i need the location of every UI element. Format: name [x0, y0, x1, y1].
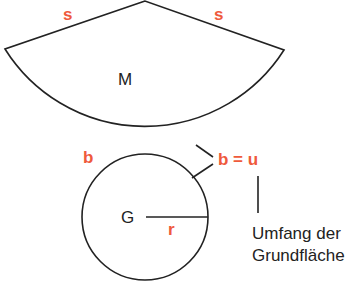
label-mantel: M	[118, 71, 132, 88]
pointer-line-circle	[192, 164, 213, 178]
label-umfang-line1: Umfang der	[252, 225, 341, 242]
label-radius: r	[168, 221, 175, 238]
cone-net-diagram: s s M b b = u G r Umfang der Grundfläche	[0, 0, 364, 284]
label-umfang-line2: Grundfläche	[252, 247, 345, 264]
pointer-line-arc	[196, 145, 213, 157]
label-b-equals-u: b = u	[218, 151, 258, 168]
label-grundflaeche: G	[121, 209, 134, 226]
label-s-left: s	[63, 6, 72, 23]
label-b: b	[83, 149, 93, 166]
label-s-right: s	[214, 6, 223, 23]
mantel-sector	[5, 1, 284, 126]
